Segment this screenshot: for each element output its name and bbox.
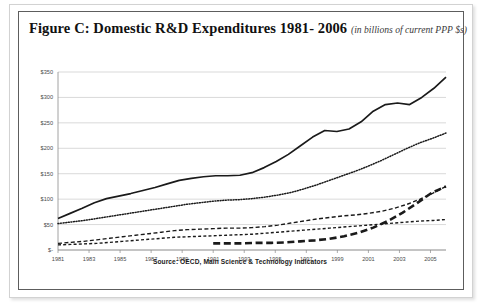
chart-series-line xyxy=(58,219,446,244)
y-axis-tick-label: $200 xyxy=(41,145,53,151)
y-axis-tick-label: $50 xyxy=(44,222,53,228)
plot-area: $-$50$100$150$200$250$300$35019811983198… xyxy=(18,60,462,288)
figure-title-main: Figure C: Domestic R&D Expenditures 1981… xyxy=(29,20,347,36)
figure-title: Figure C: Domestic R&D Expenditures 1981… xyxy=(29,20,454,37)
y-axis-tick-label: $100 xyxy=(41,196,53,202)
chart-series-line xyxy=(213,186,446,243)
y-axis-tick-label: $150 xyxy=(41,171,53,177)
figure-title-subtitle: (in billions of current PPP $s) xyxy=(351,24,467,35)
chart-series-line xyxy=(58,77,446,218)
y-axis-tick-label: $- xyxy=(48,247,53,253)
y-axis-tick-label: $300 xyxy=(41,94,53,100)
source-note: Source: OECD, Main Science & Technology … xyxy=(18,258,462,265)
chart-series-line xyxy=(58,133,446,224)
y-axis-tick-label: $250 xyxy=(41,120,53,126)
line-chart: $-$50$100$150$200$250$300$35019811983198… xyxy=(18,60,462,288)
figure-page: Figure C: Domestic R&D Expenditures 1981… xyxy=(0,0,479,303)
y-axis-tick-label: $350 xyxy=(41,69,53,75)
